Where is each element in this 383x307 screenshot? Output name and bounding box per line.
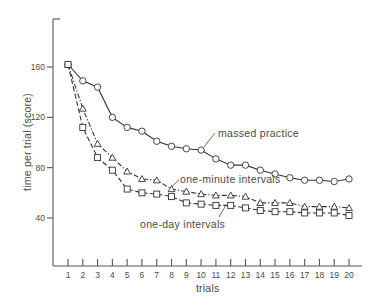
circle-marker [213,156,219,162]
series-line [68,65,349,208]
square-marker [257,207,263,213]
annotation-massed-practice-label: massed practice [218,127,299,139]
square-marker [95,155,101,161]
y-tick-label: 40 [36,213,46,223]
triangle-marker [227,192,234,198]
circle-marker [183,146,189,152]
x-tick-label: 16 [285,270,295,280]
triangle-marker [331,203,338,209]
triangle-marker [316,203,323,209]
x-tick-label: 9 [184,270,189,280]
circle-marker [124,124,130,130]
square-marker [346,212,352,218]
square-marker [65,62,71,68]
square-marker [316,210,322,216]
x-tick-label: 3 [95,270,100,280]
square-marker [198,201,204,207]
square-marker [302,210,308,216]
series-one-minute-intervals [65,61,353,210]
square-marker [331,210,337,216]
square-marker [213,202,219,208]
x-tick-label: 10 [196,270,206,280]
annotation-one-day-label: one-day intervals [140,218,225,230]
circle-marker [242,162,248,168]
circle-marker [168,143,174,149]
x-tick-label: 5 [125,270,130,280]
x-tick-label: 17 [300,270,310,280]
line-chart: 4080120160 12345678910111213141516171819… [0,0,383,307]
triangle-marker [286,199,293,205]
square-marker [272,209,278,215]
x-tick-label: 20 [344,270,354,280]
y-tick-label: 160 [31,62,45,72]
square-marker [169,194,175,200]
circle-marker [331,178,337,184]
circle-marker [94,84,100,90]
square-marker [183,200,189,206]
triangle-marker [79,105,86,111]
x-tick-label: 8 [169,270,174,280]
series-massed-practice [65,61,352,184]
plot-area [65,61,353,218]
circle-marker [198,147,204,153]
x-tick-label: 6 [140,270,145,280]
triangle-marker [124,168,131,174]
x-tick-label: 7 [154,270,159,280]
circle-marker [154,138,160,144]
x-tick-label: 14 [256,270,266,280]
square-marker [139,190,145,196]
circle-marker [287,175,293,181]
square-marker [109,167,115,173]
x-tick-label: 13 [241,270,251,280]
y-axis-title: time per trial (score) [21,93,33,191]
square-marker [154,191,160,197]
square-marker [124,186,130,192]
circle-marker [301,177,307,183]
x-axis: 1234567891011121314151617181920 [53,259,362,280]
annotation-one-minute-intervals: one-minute intervals [171,173,281,187]
square-marker [228,202,234,208]
y-axis: 4080120160 [31,19,60,266]
circle-marker [139,128,145,134]
square-marker [80,124,86,130]
circle-marker [109,114,115,120]
annotation-one-minute-label: one-minute intervals [180,173,281,185]
series-line [68,65,349,182]
circle-marker [80,78,86,84]
circle-marker [316,177,322,183]
square-marker [242,205,248,211]
x-tick-label: 4 [110,270,115,280]
x-tick-label: 15 [270,270,280,280]
y-tick-label: 80 [36,163,46,173]
annotation-massed-practice: massed practice [204,127,299,147]
square-marker [287,209,293,215]
triangle-marker [109,154,116,160]
x-tick-label: 2 [80,270,85,280]
x-tick-label: 18 [315,270,325,280]
x-tick-label: 1 [66,270,71,280]
x-axis-title: trials [196,282,219,294]
x-tick-label: 12 [226,270,236,280]
x-tick-label: 11 [211,270,220,280]
triangle-marker [139,176,146,182]
triangle-marker [94,140,101,146]
series-line [68,65,349,216]
x-tick-label: 19 [329,270,339,280]
circle-marker [227,162,233,168]
circle-marker [346,176,352,182]
